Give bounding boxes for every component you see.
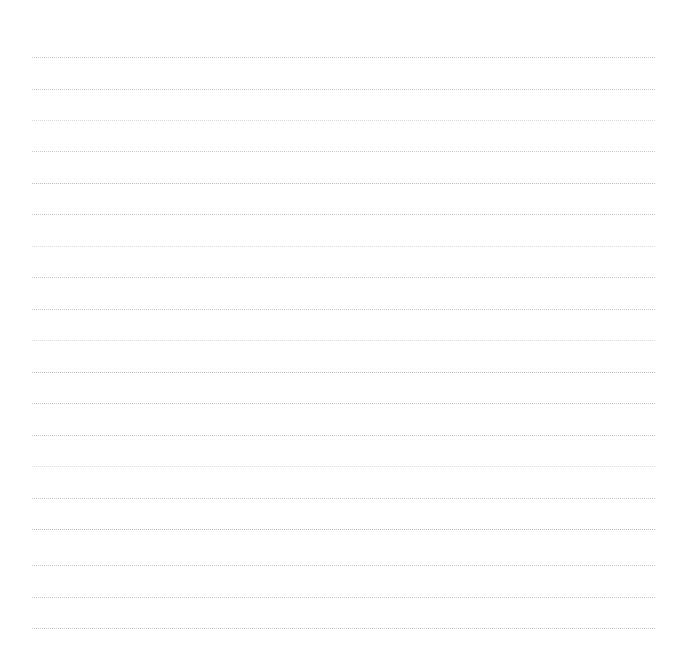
rule-line[interactable] (32, 120, 655, 121)
rule-line[interactable] (32, 372, 655, 373)
rule-line[interactable] (32, 246, 655, 247)
rule-line[interactable] (32, 403, 655, 404)
rule-line[interactable] (32, 89, 655, 90)
rule-line[interactable] (32, 57, 655, 58)
rule-line[interactable] (32, 529, 655, 530)
rule-line[interactable] (32, 435, 655, 436)
rule-line[interactable] (32, 277, 655, 278)
writing-area[interactable] (32, 0, 655, 671)
rule-line[interactable] (32, 340, 655, 341)
rule-line[interactable] (32, 597, 655, 598)
rule-line[interactable] (32, 309, 655, 310)
rule-line[interactable] (32, 183, 655, 184)
rule-line[interactable] (32, 151, 655, 152)
rule-line[interactable] (32, 214, 655, 215)
lined-page (0, 0, 681, 671)
rule-line[interactable] (32, 498, 655, 499)
rule-line[interactable] (32, 565, 655, 566)
rule-line[interactable] (32, 628, 655, 629)
rule-line[interactable] (32, 466, 655, 467)
